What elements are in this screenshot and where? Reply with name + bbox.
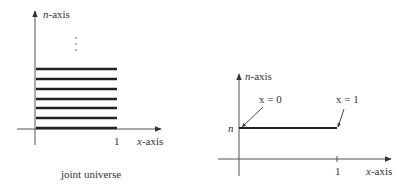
left-y-axis-label: n-axis [43, 8, 70, 20]
diagram-canvas: n-axis 1 x-axis joint universe n-axis n … [0, 0, 402, 189]
right-x-tick-label: 1 [335, 165, 341, 177]
left-diagram: n-axis 1 x-axis joint universe [17, 8, 163, 180]
right-diagram: n-axis n x = 0 x = 1 1 x-axis [218, 70, 392, 177]
right-y-axis-label: n-axis [245, 70, 272, 82]
right-x-axis-label: x-axis [365, 165, 392, 177]
right-y-tick-label: n [228, 122, 234, 134]
arrow-x0 [242, 107, 263, 127]
joint-universe-lines [36, 69, 117, 128]
continuation-dots [75, 37, 77, 51]
arrow-x1 [338, 109, 344, 127]
annotation-x0: x = 0 [259, 93, 282, 105]
left-x-tick-label: 1 [114, 135, 120, 147]
caption-joint-universe: joint universe [60, 168, 121, 180]
left-x-axis-label: x-axis [136, 135, 163, 147]
annotation-x1: x = 1 [336, 93, 359, 105]
